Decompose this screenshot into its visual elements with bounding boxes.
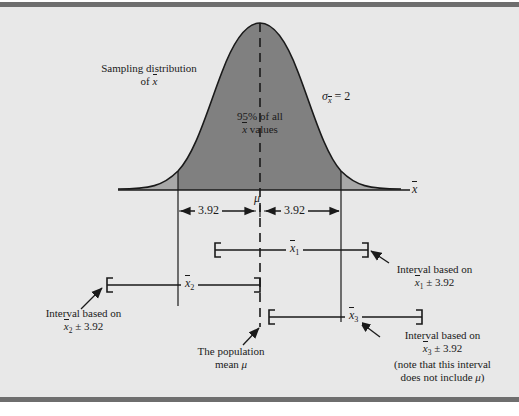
caption-interval-3-line1: Interval based on <box>370 329 515 342</box>
xbar1-label: x1 <box>286 241 303 258</box>
sigma-value: = 2 <box>335 89 351 103</box>
percent-line2: x values <box>213 123 307 136</box>
caption-interval-1-line1: Interval based on <box>372 263 497 276</box>
leader-interval-2 <box>81 288 102 309</box>
population-mean-line1: The population <box>176 345 286 358</box>
left-span-label: 3.92 <box>195 203 222 217</box>
population-mean-callout: The population mean μ <box>176 345 286 371</box>
sampling-distribution-line2: of x <box>89 75 209 88</box>
caption-interval-1: Interval based on x1 ± 3.92 <box>372 263 497 292</box>
sampling-distribution-label: Sampling distribution of x <box>89 62 209 88</box>
mu-axis-label: μ <box>254 191 260 205</box>
caption-interval-2-line1: Interval based on <box>21 307 146 320</box>
xbar2-label: x2 <box>181 276 198 293</box>
leader-population-mean <box>243 328 259 345</box>
xbar3-label: x3 <box>345 308 362 325</box>
figure-canvas: Sampling distribution of x σx = 2 95% of… <box>0 0 519 416</box>
caption-interval-3-line4: does not include μ) <box>370 371 515 384</box>
caption-interval-2: Interval based on x2 ± 3.92 <box>21 307 146 336</box>
right-span-label: 3.92 <box>281 203 308 217</box>
sigma-subscript: x <box>328 96 332 105</box>
caption-interval-3: Interval based on x3 ± 3.92 (note that t… <box>370 329 515 384</box>
standard-error-label: σx = 2 <box>322 89 350 106</box>
x-axis-label: x <box>412 182 417 196</box>
percent-line1: 95% of all <box>213 110 307 123</box>
leader-interval-1 <box>371 251 389 263</box>
caption-interval-3-line2: x3 ± 3.92 <box>370 342 515 358</box>
caption-interval-2-line2: x2 ± 3.92 <box>21 320 146 336</box>
sampling-distribution-line1: Sampling distribution <box>89 62 209 75</box>
xbar-symbol: x <box>153 75 158 87</box>
caption-interval-3-line3: (note that this interval <box>370 358 515 371</box>
percent-of-values-label: 95% of all x values <box>213 110 307 136</box>
population-mean-line2: mean μ <box>176 358 286 371</box>
caption-interval-1-line2: x1 ± 3.92 <box>372 276 497 292</box>
